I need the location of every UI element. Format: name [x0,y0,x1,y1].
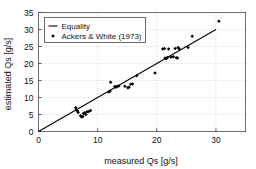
y-tick-label: 15 [24,76,34,86]
y-tick-label: 10 [24,93,34,103]
data-point-marker [167,47,171,51]
x-tick-label: 20 [152,135,162,145]
x-tick-label: 10 [93,135,103,145]
data-point-marker [172,55,176,59]
data-point-marker [109,80,113,84]
y-tick-label: 30 [24,25,34,35]
y-tick-label: 25 [24,42,34,52]
data-point-marker [173,47,177,51]
chart-legend: EqualityAckers & White (1973) [45,18,146,43]
legend-entry-label: Equality [62,22,90,31]
data-point-marker [123,85,127,89]
scatter-chart: 051015202530350102030 EqualityAckers & W… [0,0,256,169]
x-tick-label: 30 [211,135,221,145]
chart-figure: 051015202530350102030 EqualityAckers & W… [0,0,256,169]
y-tick-label: 5 [29,110,34,120]
x-tick-label: 0 [36,135,41,145]
data-point-marker [153,71,157,75]
x-axis-title: measured Qs [g/s] [104,156,178,166]
data-point-marker [217,20,221,24]
data-point-marker [191,35,195,39]
y-tick-label: 20 [24,59,34,69]
y-tick-label: 0 [29,127,34,137]
y-tick-label: 35 [24,8,34,18]
legend-entry-label: Ackers & White (1973) [62,32,142,41]
y-axis-title: estimated Qs [g/s] [3,38,13,111]
